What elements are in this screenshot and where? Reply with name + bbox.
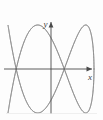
y-axis-label: y xyxy=(43,19,48,29)
plot-background xyxy=(0,0,103,120)
x-axis-label: x xyxy=(87,72,92,82)
lissajous-plot: y x xyxy=(0,0,103,120)
figure-container: VI y x xyxy=(0,0,103,120)
